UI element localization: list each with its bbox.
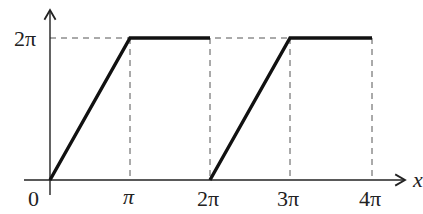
x-tick-4pi: 4π <box>359 186 381 211</box>
guide-lines <box>50 38 372 180</box>
y-tick-2pi: 2π <box>14 26 36 51</box>
origin-label: 0 <box>28 186 39 211</box>
x-axis-label: x <box>412 167 423 192</box>
x-tick-2pi: 2π <box>197 186 219 211</box>
x-tick-3pi: 3π <box>277 186 299 211</box>
x-tick-pi: π <box>123 184 135 209</box>
function-curve-2 <box>210 38 372 180</box>
function-plot: 0 π 2π 3π 4π 2π x <box>0 0 423 214</box>
